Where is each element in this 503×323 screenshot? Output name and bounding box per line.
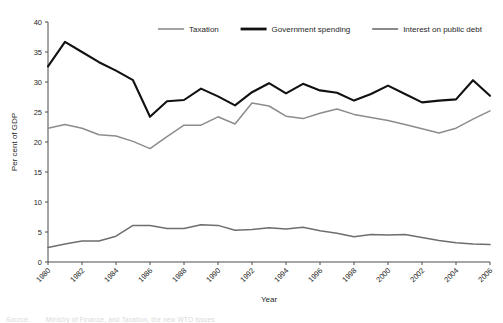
x-tick-label: 2006 [476, 266, 494, 284]
x-tick-label: 1994 [272, 266, 290, 284]
x-tick-label: 1982 [68, 266, 86, 284]
x-tick-label: 2000 [374, 266, 392, 284]
series-line-taxation [48, 103, 490, 149]
x-tick-label: 1984 [102, 266, 120, 284]
y-tick-label: 20 [34, 138, 42, 147]
legend-label: Government spending [272, 25, 351, 34]
y-tick-label: 0 [38, 258, 42, 267]
y-tick-label: 40 [34, 18, 42, 27]
y-tick-label: 30 [34, 78, 42, 87]
legend-label: Taxation [189, 25, 219, 34]
x-tick-label: 1990 [204, 266, 222, 284]
source-note: Source: Ministry of Finance, and Taxatio… [6, 316, 215, 323]
y-tick-label: 25 [34, 108, 42, 117]
y-tick-label: 15 [34, 168, 42, 177]
x-tick-label: 1980 [34, 266, 52, 284]
x-tick-label: 1988 [170, 266, 188, 284]
legend-label: Interest on public debt [403, 25, 482, 34]
x-tick-label: 1992 [238, 266, 256, 284]
y-tick-label: 10 [34, 198, 42, 207]
x-axis-title: Year [261, 295, 278, 304]
x-tick-label: 1996 [306, 266, 324, 284]
y-tick-label: 5 [38, 228, 42, 237]
x-tick-label: 2002 [408, 266, 426, 284]
series-line-interest-on-public-debt [48, 225, 490, 248]
source-label: Source: [6, 316, 30, 323]
legend-item-taxation[interactable]: Taxation [158, 25, 219, 34]
y-tick-label: 35 [34, 48, 42, 57]
y-axis-title: Per cent of GDP [10, 113, 19, 171]
x-tick-label: 1986 [136, 266, 154, 284]
x-tick-label: 2004 [442, 266, 460, 284]
source-text: Ministry of Finance, and Taxation, the n… [46, 316, 215, 323]
x-tick-label: 1998 [340, 266, 358, 284]
legend-item-government-spending[interactable]: Government spending [241, 25, 351, 34]
legend-item-interest-on-public-debt[interactable]: Interest on public debt [372, 25, 482, 34]
